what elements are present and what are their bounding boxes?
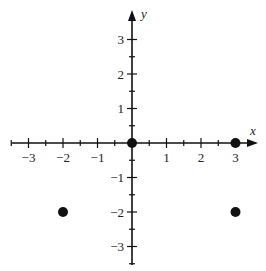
y-tick-label: 1 [118,101,125,116]
data-points [58,138,241,217]
x-tick-label: 1 [163,150,170,165]
y-tick-label: 3 [118,32,125,47]
y-axis-arrow-icon [128,10,136,21]
x-tick-label: −1 [91,150,105,165]
x-tick-label: 3 [232,150,239,165]
y-tick-label: 2 [118,67,125,82]
axes [12,10,258,265]
x-tick-label: −3 [22,150,36,165]
y-tick-label: −2 [110,205,124,220]
data-point [231,207,241,217]
x-tick-label: 2 [198,150,205,165]
data-point [231,138,241,148]
coordinate-plane: −3−2−1123−3−2−1123 x y [0,0,266,271]
data-point [58,207,68,217]
y-axis-label: y [139,6,147,21]
x-tick-label: −2 [56,150,70,165]
x-axis-arrow-icon [247,139,258,147]
data-point [127,138,137,148]
y-tick-label: −1 [110,170,124,185]
x-axis-label: x [249,123,256,138]
y-tick-label: −3 [110,239,124,254]
